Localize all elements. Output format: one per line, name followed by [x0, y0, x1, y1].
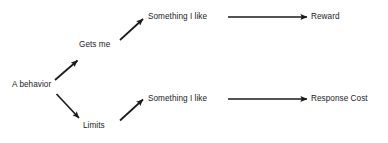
behavior-flow-diagram: A behavior Gets me Limits Something I li…: [0, 0, 388, 143]
node-gets-me: Gets me: [79, 40, 110, 50]
edge-limits-to-something-i-like: [120, 100, 143, 121]
edge-gets-me-to-something-i-like: [120, 19, 143, 40]
node-reward: Reward: [311, 12, 340, 22]
node-limits: Limits: [83, 121, 105, 131]
edge-behavior-to-limits: [57, 94, 80, 118]
node-a-behavior: A behavior: [12, 80, 51, 90]
node-something-i-like-bottom: Something I like: [148, 94, 207, 104]
node-response-cost: Response Cost: [311, 94, 368, 104]
node-something-i-like-top: Something I like: [148, 12, 207, 22]
edge-behavior-to-gets-me: [55, 61, 78, 81]
